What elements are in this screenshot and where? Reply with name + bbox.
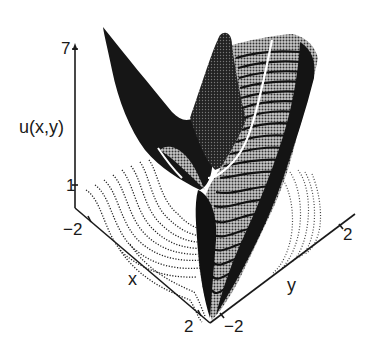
x-axis-line [75,208,210,323]
x-tick-label-start: −2 [63,221,82,238]
surface-plot [0,0,376,345]
y-tick-label-end: 2 [343,226,352,243]
z-axis-label: u(x,y) [19,118,64,136]
y-tick-label-start: −2 [224,318,243,335]
y-axis-label: y [287,276,296,294]
x-tick-label-end: 2 [184,318,193,335]
z-axis-arrow-icon [73,43,78,50]
x-axis-label: x [128,270,137,288]
z-tick-label-bottom: 1 [66,177,75,194]
z-tick-label-top: 7 [61,40,70,57]
